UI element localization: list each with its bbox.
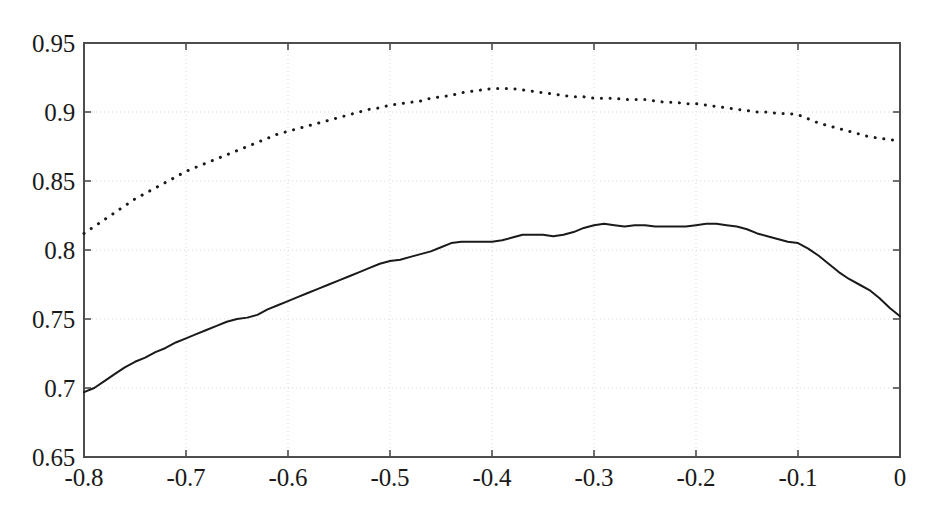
y-tick-label: 0.7 bbox=[44, 376, 75, 401]
x-tick-label: -0.7 bbox=[167, 465, 206, 490]
x-tick-label: -0.6 bbox=[269, 465, 308, 490]
y-tick-label: 0.75 bbox=[32, 307, 75, 332]
y-tick-label: 0.85 bbox=[32, 169, 75, 194]
x-tick-label: -0.3 bbox=[575, 465, 614, 490]
x-tick-label: -0.2 bbox=[677, 465, 716, 490]
gridlines bbox=[84, 43, 900, 457]
x-tick-label: -0.8 bbox=[65, 465, 104, 490]
data-series-layer bbox=[84, 89, 900, 393]
y-tick-label: 0.95 bbox=[32, 31, 75, 56]
x-tick-label: -0.5 bbox=[371, 465, 410, 490]
x-tick-label: -0.1 bbox=[779, 465, 818, 490]
chart-figure: 0.650.70.750.80.850.90.95 -0.8-0.7-0.6-0… bbox=[0, 0, 942, 513]
y-tick-label: 0.8 bbox=[44, 238, 75, 263]
x-tick-label: 0 bbox=[894, 465, 906, 490]
chart-canvas bbox=[0, 0, 942, 513]
x-tick-label: -0.4 bbox=[473, 465, 512, 490]
y-tick-label: 0.9 bbox=[44, 100, 75, 125]
